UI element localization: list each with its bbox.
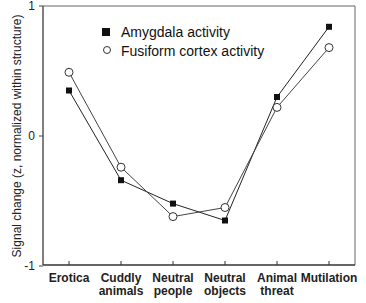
y-axis-label: Signal change (z, normalized within stru… bbox=[10, 15, 24, 258]
x-category-label: people bbox=[154, 284, 193, 298]
x-category-label: Erotica bbox=[49, 271, 90, 285]
x-category-label: objects bbox=[204, 284, 246, 298]
series-line bbox=[69, 48, 329, 217]
square-marker-icon bbox=[66, 88, 72, 94]
x-category-label: animals bbox=[99, 284, 144, 298]
x-category-label: threat bbox=[260, 284, 293, 298]
square-marker-icon bbox=[274, 94, 280, 100]
circle-marker-icon bbox=[169, 213, 177, 221]
x-category-label: Neutral bbox=[152, 271, 193, 285]
legend-circle-marker-icon bbox=[104, 47, 111, 54]
circle-marker-icon bbox=[221, 204, 229, 212]
y-tick-label: 1 bbox=[28, 0, 35, 13]
legend-label-amygdala: Amygdala activity bbox=[121, 24, 230, 40]
series-fusiform bbox=[65, 44, 333, 221]
square-marker-icon bbox=[170, 201, 176, 207]
circle-marker-icon bbox=[117, 163, 125, 171]
square-marker-icon bbox=[222, 218, 228, 224]
x-category-label: Neutral bbox=[204, 271, 245, 285]
square-marker-icon bbox=[326, 24, 332, 30]
line-chart: 10-1 EroticaCuddlyanimalsNeutralpeopleNe… bbox=[0, 0, 366, 303]
y-ticks: 10-1 bbox=[24, 0, 43, 273]
x-ticks: EroticaCuddlyanimalsNeutralpeopleNeutral… bbox=[49, 261, 358, 298]
circle-marker-icon bbox=[325, 44, 333, 52]
y-tick-label: -1 bbox=[24, 259, 35, 273]
circle-marker-icon bbox=[273, 103, 281, 111]
x-category-label: Animal bbox=[257, 271, 297, 285]
legend: Amygdala activity Fusiform cortex activi… bbox=[102, 24, 264, 59]
circle-marker-icon bbox=[65, 68, 73, 76]
x-category-label: Cuddly bbox=[101, 271, 142, 285]
square-marker-icon bbox=[118, 177, 124, 183]
legend-label-fusiform: Fusiform cortex activity bbox=[121, 43, 264, 59]
x-category-label: Mutilation bbox=[301, 271, 358, 285]
y-tick-label: 0 bbox=[28, 129, 35, 143]
legend-square-marker-icon bbox=[102, 28, 110, 36]
